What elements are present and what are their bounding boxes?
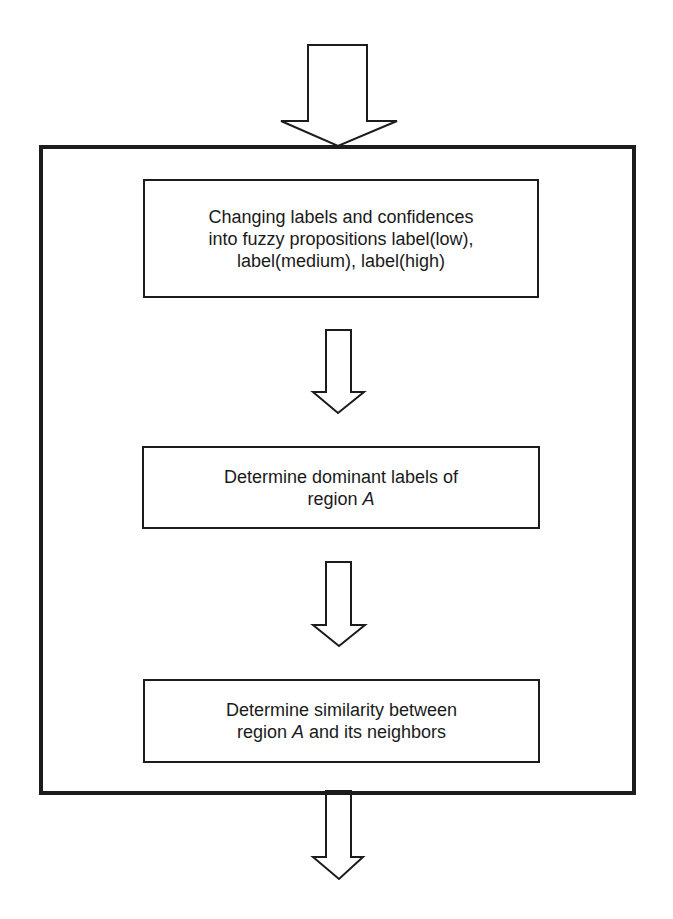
step-text-line: into fuzzy propositions label(low), [208,228,473,250]
region-variable: A [363,489,375,509]
step-text-fragment: region [307,489,362,509]
step-text-line: Changing labels and confidences [208,206,473,228]
input-arrow-icon [281,45,397,146]
flowchart-canvas: Changing labels and confidences into fuz… [0,0,673,919]
step-box-fuzzy-propositions: Changing labels and confidences into fuz… [143,179,539,298]
step-text-line: Determine similarity between [226,699,457,721]
step-text-line: label(medium), label(high) [237,250,445,272]
step-text-line: Determine dominant labels of [224,466,458,488]
step-box-dominant-labels: Determine dominant labels of region A [142,446,540,529]
step-text-line: region A and its neighbors [237,721,446,743]
region-variable: A [292,722,304,742]
output-arrow-icon [313,791,363,879]
step-text-fragment: region [237,722,292,742]
step-text-fragment: and its neighbors [304,722,446,742]
step-text-line: region A [307,488,374,510]
step-box-similarity: Determine similarity between region A an… [143,679,540,763]
